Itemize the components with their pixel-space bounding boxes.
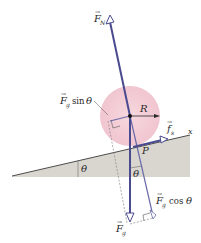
label-normal-force: F N → bbox=[93, 8, 106, 26]
label-contact-point: P bbox=[141, 145, 149, 156]
svg-text:sin: sin bbox=[72, 96, 85, 106]
label-x-axis: x bbox=[188, 127, 193, 136]
svg-text:θ: θ bbox=[86, 95, 92, 106]
label-incline-angle: θ bbox=[81, 163, 87, 174]
svg-text:cos: cos bbox=[169, 196, 183, 206]
label-gravity-cos: F g cos θ → bbox=[155, 190, 192, 209]
ball-center bbox=[128, 114, 132, 118]
svg-text:g: g bbox=[66, 101, 70, 109]
gravity-arrowhead bbox=[126, 213, 134, 222]
gravity-cos-arrowhead bbox=[150, 210, 156, 219]
svg-text:→: → bbox=[95, 8, 100, 15]
label-vertical-angle: θ bbox=[133, 168, 139, 179]
incline-free-body-diagram: F N → F g sin θ → R f s → x P θ θ F g co… bbox=[0, 0, 201, 243]
svg-text:→: → bbox=[167, 118, 172, 125]
svg-text:→: → bbox=[61, 90, 66, 97]
label-radius: R bbox=[139, 103, 148, 114]
label-gravity: F g → bbox=[115, 218, 126, 237]
svg-text:N: N bbox=[99, 19, 106, 26]
label-static-friction: f s → bbox=[166, 118, 174, 136]
svg-text:g: g bbox=[162, 201, 166, 209]
svg-text:s: s bbox=[171, 129, 174, 136]
normal-force-arrowhead bbox=[106, 15, 114, 24]
svg-text:θ: θ bbox=[186, 195, 192, 206]
svg-text:→: → bbox=[117, 218, 122, 225]
svg-text:→: → bbox=[157, 190, 162, 197]
svg-text:g: g bbox=[122, 229, 126, 237]
